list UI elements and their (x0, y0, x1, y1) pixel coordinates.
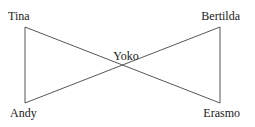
edges-group (25, 27, 220, 103)
node-label-andy: Andy (10, 106, 37, 120)
node-label-bertilda: Bertilda (201, 9, 240, 23)
graph-diagram: Tina Bertilda Yoko Andy Erasmo (0, 0, 255, 127)
node-label-tina: Tina (8, 9, 30, 23)
node-label-yoko: Yoko (113, 49, 138, 63)
node-label-erasmo: Erasmo (203, 106, 240, 120)
